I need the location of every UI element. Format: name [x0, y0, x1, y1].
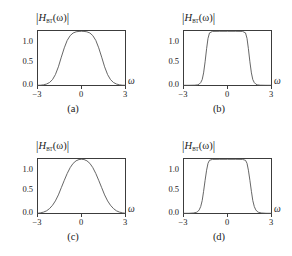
curve-c	[37, 158, 126, 214]
x-tick-2: 0	[74, 218, 88, 227]
x-tick-3: 3	[264, 90, 278, 99]
panel-caption-d: (d)	[146, 232, 292, 243]
plot-panel-a: |HBT(ω)| 1.0 0.5 0.0 −3 0 3 ω (a)	[0, 0, 146, 128]
transfer-function-argument: (ω)	[53, 140, 67, 151]
x-tick-3: 3	[118, 218, 132, 227]
y-tick-1: 1.0	[168, 165, 179, 174]
y-tick-2: 0.5	[168, 185, 179, 194]
figure-four-magnitude-responses: |HBT(ω)| 1.0 0.5 0.0 −3 0 3 ω (a) |HBT(ω…	[0, 0, 292, 256]
plot-title-d: |HBT(ω)|	[182, 140, 215, 152]
x-axis-label-omega: ω	[128, 77, 135, 87]
panel-caption-a: (a)	[0, 104, 146, 115]
transfer-function-argument: (ω)	[199, 12, 213, 23]
curve-d	[183, 158, 272, 214]
x-tick-3: 3	[118, 90, 132, 99]
abs-bar-right: |	[213, 139, 216, 153]
y-tick-1: 1.0	[22, 37, 33, 46]
x-tick-2: 0	[220, 218, 234, 227]
y-tick-3: 0.0	[168, 208, 179, 217]
y-tick-1: 1.0	[22, 165, 33, 174]
plot-panel-c: |HBT(ω)| 1.0 0.5 0.0 −3 0 3 ω (c)	[0, 128, 146, 256]
panel-caption-b: (b)	[146, 104, 292, 115]
y-tick-1: 1.0	[168, 37, 179, 46]
transfer-function-argument: (ω)	[199, 140, 213, 151]
x-axis-label-omega: ω	[274, 77, 281, 87]
panel-caption-c: (c)	[0, 232, 146, 243]
x-tick-1: −3	[30, 90, 44, 99]
y-tick-3: 0.0	[22, 208, 33, 217]
curve-a	[37, 30, 126, 86]
x-tick-2: 0	[74, 90, 88, 99]
abs-bar-right: |	[213, 11, 216, 25]
abs-bar-right: |	[67, 11, 70, 25]
transfer-function-argument: (ω)	[53, 12, 67, 23]
x-tick-2: 0	[220, 90, 234, 99]
x-tick-1: −3	[176, 218, 190, 227]
x-tick-1: −3	[30, 218, 44, 227]
abs-bar-right: |	[67, 139, 70, 153]
x-axis-label-omega: ω	[274, 205, 281, 215]
plot-panel-d: |HBT(ω)| 1.0 0.5 0.0 −3 0 3 ω (d)	[146, 128, 292, 256]
x-tick-3: 3	[264, 218, 278, 227]
plot-panel-b: |HBT(ω)| 1.0 0.5 0.0 −3 0 3 ω (b)	[146, 0, 292, 128]
x-tick-1: −3	[176, 90, 190, 99]
plot-title-b: |HBT(ω)|	[182, 12, 215, 24]
y-tick-3: 0.0	[22, 80, 33, 89]
plot-title-c: |HBT(ω)|	[36, 140, 69, 152]
y-tick-2: 0.5	[22, 185, 33, 194]
x-axis-label-omega: ω	[128, 205, 135, 215]
plot-title-a: |HBT(ω)|	[36, 12, 69, 24]
curve-b	[183, 30, 272, 86]
y-tick-2: 0.5	[168, 57, 179, 66]
y-tick-3: 0.0	[168, 80, 179, 89]
y-tick-2: 0.5	[22, 57, 33, 66]
